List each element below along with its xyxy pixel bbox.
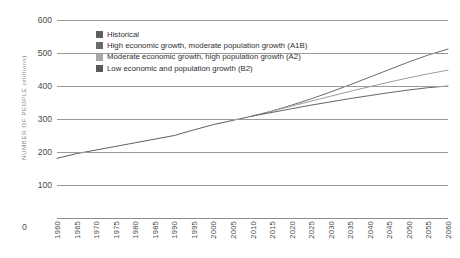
x-tick-label-1965: 1965 <box>73 221 82 239</box>
x-tick-label-1990: 1990 <box>170 221 179 239</box>
x-tick-label-2040: 2040 <box>366 221 375 239</box>
x-tick-label-2000: 2000 <box>209 221 218 239</box>
x-tick-label-2035: 2035 <box>346 221 355 239</box>
chart-legend: HistoricalHigh economic growth, moderate… <box>96 29 356 75</box>
x-tick-label-2010: 2010 <box>249 221 258 239</box>
x-tick-label-1975: 1975 <box>112 221 121 239</box>
x-tick-label-2045: 2045 <box>385 221 394 239</box>
x-tick-label-1960: 1960 <box>53 221 62 239</box>
legend-swatch-icon <box>96 42 103 49</box>
x-tick-label-2025: 2025 <box>307 221 316 239</box>
x-axis-tick-labels: 1960196519701975198019851990199520002005… <box>57 221 448 258</box>
legend-swatch-icon <box>96 65 103 72</box>
y-tick-label-500: 500 <box>18 49 52 58</box>
population-projection-chart: NUMBER OF PEOPLE (millions) 600500400300… <box>0 0 460 258</box>
x-tick-label-2020: 2020 <box>288 221 297 239</box>
x-tick-label-2055: 2055 <box>424 221 433 239</box>
x-tick-label-1970: 1970 <box>92 221 101 239</box>
legend-swatch-icon <box>96 54 103 61</box>
gridline-200 <box>57 152 448 153</box>
y-tick-label-600: 600 <box>18 16 52 25</box>
gridline-600 <box>57 20 448 21</box>
x-tick-label-2030: 2030 <box>327 221 336 239</box>
y-tick-label-100: 100 <box>18 181 52 190</box>
series-line <box>253 86 449 116</box>
x-tick-label-2005: 2005 <box>229 221 238 239</box>
y-tick-label-300: 300 <box>18 115 52 124</box>
legend-swatch-icon <box>96 31 103 38</box>
x-tick-label-2050: 2050 <box>405 221 414 239</box>
gridline-400 <box>57 86 448 87</box>
x-tick-label-1995: 1995 <box>190 221 199 239</box>
legend-item[interactable]: Low economic and population growth (B2) <box>96 63 356 74</box>
y-tick-label-400: 400 <box>18 82 52 91</box>
x-tick-label-1985: 1985 <box>151 221 160 239</box>
gridline-300 <box>57 119 448 120</box>
legend-item-label: Low economic and population growth (B2) <box>107 65 253 73</box>
gridline-0 <box>57 218 448 219</box>
y-axis-tick-labels: 600500400300200100 <box>14 0 52 258</box>
legend-item[interactable]: High economic growth, moderate populatio… <box>96 40 356 51</box>
x-tick-label-2015: 2015 <box>268 221 277 239</box>
gridline-100 <box>57 185 448 186</box>
legend-item-label: Moderate economic growth, high populatio… <box>107 53 301 61</box>
x-tick-label-1980: 1980 <box>131 221 140 239</box>
legend-item-label: High economic growth, moderate populatio… <box>107 42 307 50</box>
legend-item[interactable]: Historical <box>96 29 356 40</box>
y-axis-zero-label: 0 <box>22 222 27 232</box>
legend-item[interactable]: Moderate economic growth, high populatio… <box>96 52 356 63</box>
legend-item-label: Historical <box>107 31 139 39</box>
x-tick-label-2060: 2060 <box>444 221 453 239</box>
y-tick-label-200: 200 <box>18 148 52 157</box>
series-line <box>253 70 449 116</box>
